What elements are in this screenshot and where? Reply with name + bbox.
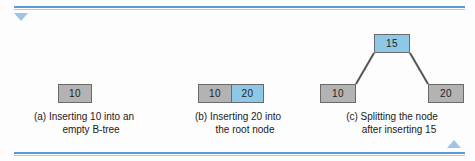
panel-b-caption: (b) Inserting 20 into the root node xyxy=(164,110,312,136)
panel-b-diagram: 10 20 xyxy=(164,20,312,106)
panel-c-left-child-node: 10 xyxy=(320,84,356,103)
panel-b-key-cell-1: 10 xyxy=(199,85,231,102)
edge-root-to-left-child xyxy=(356,53,374,84)
panel-c: 15 10 20 (c) Splitting the node after in… xyxy=(312,20,472,148)
panel-b: 10 20 (b) Inserting 20 into the root nod… xyxy=(164,20,312,148)
panel-c-caption-line2: after inserting 15 xyxy=(312,123,472,136)
panel-c-caption-line1: (c) Splitting the node xyxy=(312,110,472,123)
panel-a-root-node: 10 xyxy=(58,84,92,103)
panel-c-caption: (c) Splitting the node after inserting 1… xyxy=(312,110,472,136)
triangle-up-icon[interactable] xyxy=(447,140,461,148)
panel-c-diagram: 15 10 20 xyxy=(312,20,472,106)
panel-c-root-node: 15 xyxy=(374,34,410,53)
btree-insertion-figure: 10 (a) Inserting 10 into an empty B-tree… xyxy=(0,0,475,161)
top-rule-thin xyxy=(14,9,465,10)
panel-b-caption-line1: (b) Inserting 20 into xyxy=(164,110,312,123)
panel-b-root-node: 10 20 xyxy=(198,84,264,103)
panel-a-caption-line2: empty B-tree xyxy=(4,123,164,136)
panel-a-caption-line1: (a) Inserting 10 into an xyxy=(4,110,164,123)
top-rule xyxy=(14,6,465,8)
panel-b-caption-line2: the root node xyxy=(164,123,312,136)
edge-root-to-right-child xyxy=(410,53,428,84)
panel-a: 10 (a) Inserting 10 into an empty B-tree xyxy=(4,20,164,148)
panel-c-right-child-node: 20 xyxy=(428,84,464,103)
bottom-rule xyxy=(14,152,465,154)
bottom-rule-thin xyxy=(14,155,465,156)
panel-a-diagram: 10 xyxy=(4,20,164,106)
panel-b-key-cell-2: 20 xyxy=(231,85,263,102)
panel-a-caption: (a) Inserting 10 into an empty B-tree xyxy=(4,110,164,136)
